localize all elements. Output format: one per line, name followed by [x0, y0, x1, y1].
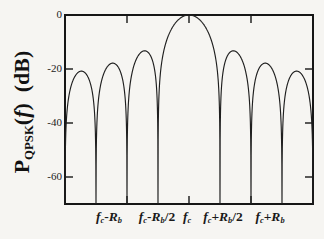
x-tick-label-fc-Rb/2: fc-Rb/2 — [139, 209, 175, 225]
label-part: + — [264, 209, 272, 224]
y-tick-label--60: -60 — [32, 170, 62, 182]
label-part: b — [118, 216, 122, 225]
plot-frame — [65, 15, 313, 204]
label-part: b — [280, 216, 284, 225]
x-tick-label-fc+Rb: fc+Rb — [255, 209, 284, 225]
label-part: /2 — [232, 209, 243, 224]
label-part: R — [152, 209, 161, 224]
x-tick-label-fc-Rb: fc-Rb — [96, 209, 122, 225]
x-tick-label-fc: fc — [183, 209, 191, 225]
y-tick-label--20: -20 — [32, 62, 62, 74]
label-part: R — [109, 209, 118, 224]
label-part: + — [211, 209, 219, 224]
label-part: /2 — [165, 209, 176, 224]
x-tick-label-fc+Rb/2: fc+Rb/2 — [203, 209, 243, 225]
psd-curve — [65, 15, 313, 204]
y-tick-label--40: -40 — [32, 116, 62, 128]
label-part: c — [187, 216, 191, 225]
y-tick-label-0: 0 — [32, 8, 62, 20]
label-part: R — [271, 209, 280, 224]
label-part: R — [219, 209, 228, 224]
qpsk-psd-figure: PQPSK(f) (dB) 0-20-40-60 fc-Rbfc-Rb/2fcf… — [0, 0, 324, 239]
